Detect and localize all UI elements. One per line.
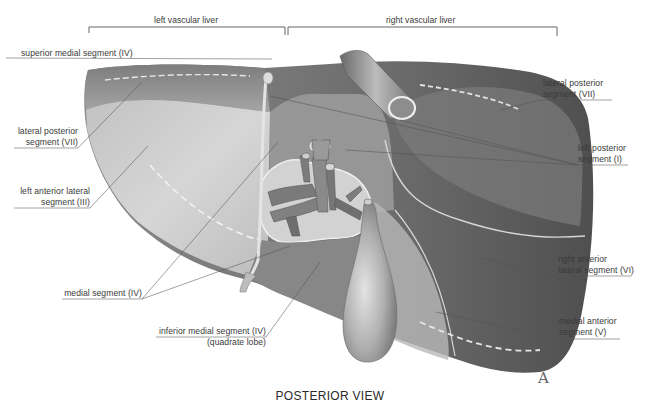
label-superior-medial-segment: superior medial segment (IV) (21, 48, 133, 59)
label-lateral-posterior-segment-right: lateral posterior segment (VII) (543, 78, 603, 100)
label-left-anterior-lateral-segment: left anterior lateral segment (III) (14, 186, 90, 208)
label-text-line2: segment (I) (578, 154, 626, 165)
label-text-line2: lateral segment (VI) (558, 265, 634, 276)
label-text-line1: left anterior lateral (14, 186, 90, 197)
liver-illustration (0, 0, 660, 410)
label-lateral-posterior-segment-left: lateral posterior segment (VII) (14, 126, 78, 148)
label-text-line2: (quadrate lobe) (150, 337, 266, 348)
label-left-posterior-segment: left posterior segment (I) (578, 143, 626, 165)
label-text-line2: segment (V) (559, 327, 617, 338)
label-medial-segment: medial segment (IV) (62, 288, 142, 299)
label-medial-anterior-segment: medial anterior segment (V) (559, 316, 617, 338)
left-vascular-bracket (89, 27, 285, 35)
left-vascular-liver-label: left vascular liver (154, 15, 218, 25)
label-text-line1: left posterior (578, 143, 626, 154)
label-text-line1: lateral posterior (543, 78, 603, 89)
ligament-end (263, 72, 273, 84)
view-title: POSTERIOR VIEW (0, 389, 660, 403)
label-text-line2: segment (VII) (14, 137, 78, 148)
label-text-line1: lateral posterior (14, 126, 78, 137)
label-text-line2: segment (VII) (543, 89, 603, 100)
liver-segments-diagram: left vascular liver right vascular liver… (0, 0, 660, 410)
right-vascular-liver-label: right vascular liver (386, 15, 455, 25)
label-text-line2: segment (III) (14, 197, 90, 208)
label-right-anterior-lateral-segment: right anterior lateral segment (VI) (558, 254, 634, 276)
label-text-line1: right anterior (558, 254, 634, 265)
label-inferior-medial-segment: inferior medial segment (IV) (quadrate l… (150, 326, 266, 348)
right-vascular-bracket (288, 27, 557, 36)
label-text-line1: medial segment (IV) (62, 288, 142, 299)
label-text-line1: inferior medial segment (IV) (150, 326, 266, 337)
ivc-opening (389, 97, 415, 119)
label-text-line1: medial anterior (559, 316, 617, 327)
figure-letter: A (538, 369, 549, 387)
label-text: superior medial segment (IV) (21, 48, 133, 58)
